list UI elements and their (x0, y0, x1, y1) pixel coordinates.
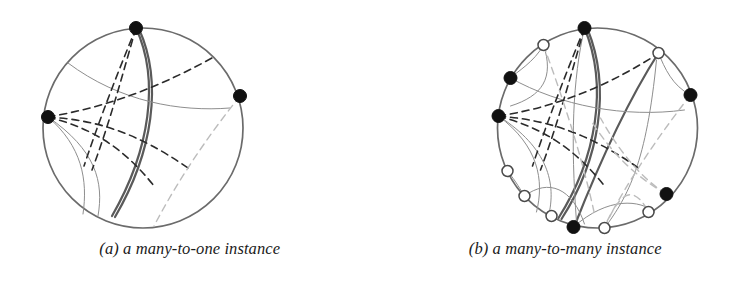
node-filled[interactable] (42, 111, 55, 124)
diagram-a (0, 0, 374, 245)
arc-dashed-dark (92, 28, 136, 170)
node-filled[interactable] (684, 89, 697, 102)
figure-row: (a) a many-to-one instance (b) a many-to… (0, 0, 747, 285)
arc-solid-thin (573, 28, 584, 222)
node-hollow[interactable] (502, 166, 513, 177)
node-filled[interactable] (130, 22, 143, 35)
node-hollow[interactable] (653, 48, 664, 59)
arc-dashed-light (154, 96, 240, 226)
many-to-one-diagram (0, 0, 374, 245)
node-filled[interactable] (660, 188, 673, 201)
node-hollow[interactable] (546, 211, 557, 222)
arc-solid-thin (510, 45, 543, 78)
node-filled[interactable] (578, 22, 591, 35)
diagram-b (374, 0, 747, 245)
node-hollow[interactable] (643, 207, 654, 218)
many-to-many-diagram (374, 0, 747, 245)
boundary-circle (43, 28, 243, 228)
node-hollow[interactable] (519, 191, 530, 202)
node-hollow[interactable] (599, 223, 610, 234)
node-filled[interactable] (567, 221, 580, 234)
arc-dashed-light (600, 118, 666, 194)
figure-panel-a: (a) a many-to-one instance (0, 0, 374, 285)
arc-solid-thin (658, 53, 690, 95)
node-filled[interactable] (504, 72, 517, 85)
figure-panel-b: (b) a many-to-many instance (374, 0, 747, 285)
arc-dashed-dark (84, 28, 136, 166)
node-filled[interactable] (234, 90, 247, 103)
arc-dashed-dark (498, 116, 638, 168)
node-hollow[interactable] (538, 40, 549, 51)
arc-dashed-dark (48, 117, 154, 186)
arc-solid-thick (574, 53, 658, 226)
arc-dashed-dark (498, 56, 654, 116)
node-filled[interactable] (492, 110, 505, 123)
arc-dashed-dark (48, 117, 188, 168)
